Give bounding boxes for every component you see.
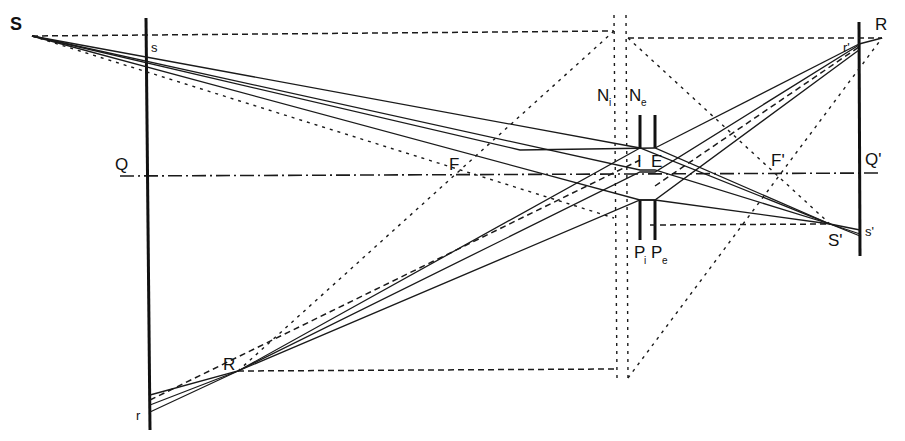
ray-sprime-horizontal bbox=[650, 224, 830, 225]
label-I: I bbox=[637, 152, 642, 171]
label-R-lower: R bbox=[223, 355, 235, 374]
label-s: s bbox=[151, 40, 158, 55]
label-Q-prime: Q' bbox=[865, 150, 881, 169]
label-r: r bbox=[136, 408, 141, 423]
label-Ni-sub: i bbox=[609, 97, 611, 108]
ray-r-bottom-horizontal bbox=[238, 369, 615, 371]
nodal-plane-ni bbox=[614, 15, 617, 378]
label-S: S bbox=[10, 14, 22, 34]
optical-axis bbox=[120, 173, 880, 176]
label-E: E bbox=[651, 152, 662, 171]
label-Pe-sub: e bbox=[662, 255, 668, 266]
ray-s-top-horizontal bbox=[32, 31, 614, 36]
label-Q: Q bbox=[115, 155, 128, 174]
ray-r-dashed-center-out bbox=[655, 47, 859, 186]
image-screen bbox=[859, 22, 860, 256]
ray-s-3 bbox=[32, 36, 860, 236]
ray-s-4 bbox=[32, 36, 830, 224]
label-R: R bbox=[875, 15, 887, 34]
label-F-prime: F' bbox=[771, 151, 785, 170]
label-Pi-sub: i bbox=[644, 255, 646, 266]
label-r-prime: r' bbox=[843, 40, 850, 55]
label-Ne-sub: e bbox=[641, 97, 647, 108]
label-Ni: N bbox=[597, 86, 609, 105]
label-Ne: N bbox=[629, 86, 641, 105]
object-screen bbox=[146, 18, 150, 430]
ray-r-4 bbox=[655, 44, 859, 148]
label-F: F bbox=[449, 155, 459, 174]
label-s-prime: s' bbox=[865, 224, 874, 239]
label-S-prime: S' bbox=[828, 231, 843, 250]
ray-r-3 bbox=[150, 50, 859, 412]
optics-ray-diagram: S s Q F N i N e I E P i P e F' Q' R r' S… bbox=[0, 0, 905, 441]
ray-sprime-dotted bbox=[628, 38, 830, 224]
construction-f-2 bbox=[628, 38, 882, 378]
ray-s-2 bbox=[32, 36, 860, 234]
label-Pe: P bbox=[651, 243, 662, 262]
